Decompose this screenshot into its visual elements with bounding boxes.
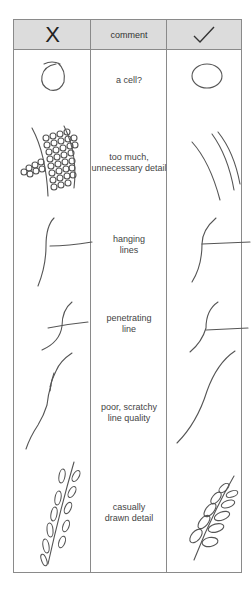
row-comment: poor, scratchy line quality (91, 402, 167, 424)
row-comment: hanging lines (91, 234, 167, 256)
joined-lines-icon (192, 216, 252, 288)
cell-mesh-detail-icon (16, 124, 88, 200)
row-comment: casually drawn detail (91, 502, 167, 524)
header-comment: comment (91, 20, 167, 49)
crossing-line-icon (40, 300, 90, 352)
clean-circle-icon (189, 60, 225, 92)
column-divider (166, 20, 167, 572)
simple-curved-lines-icon (190, 132, 240, 204)
table-header: X comment (14, 20, 241, 50)
checkmark-icon (192, 25, 216, 45)
scribbled-circle-icon (36, 58, 72, 94)
row-comment: a cell? (91, 75, 167, 86)
casual-leaf-sprig-icon (32, 460, 88, 566)
scratchy-line-icon (24, 351, 74, 451)
header-good (167, 20, 241, 49)
hanging-lines-icon (38, 216, 94, 288)
comparison-table: X comment a cell? too much, unnecessary … (13, 19, 242, 573)
row-comment: penetrating line (91, 313, 167, 335)
smooth-line-icon (175, 351, 237, 451)
header-bad: X (14, 20, 91, 49)
careful-leaf-sprig-icon (182, 474, 238, 564)
row-comment: too much, unnecessary detail (91, 152, 167, 174)
meeting-line-icon (188, 300, 250, 352)
column-divider (90, 20, 91, 572)
